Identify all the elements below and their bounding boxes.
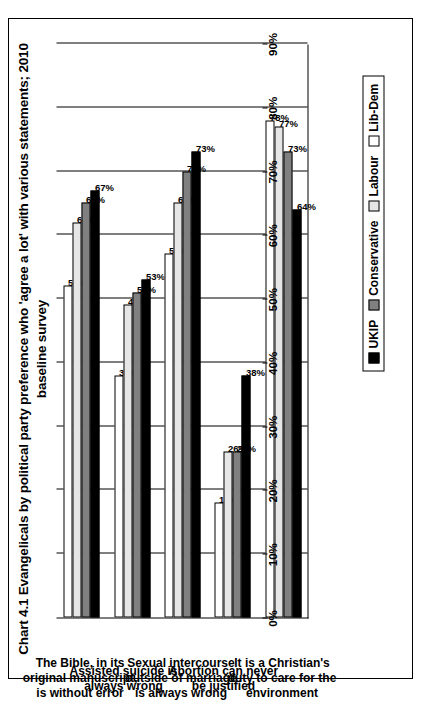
axis-tick-label: 30% [267, 415, 279, 438]
legend-item-ukip: UKIP [367, 319, 381, 363]
legend-label: Lib-Dem [367, 83, 381, 131]
axis-tick-label: 20% [267, 479, 279, 502]
bar-group: 18%26%26%38% [208, 43, 258, 617]
bar-conservative [132, 292, 141, 617]
bar-group: 52%62%65%67% [57, 43, 107, 617]
bar-labour [173, 202, 182, 617]
bar-conservative [233, 451, 242, 617]
bar-labour [224, 451, 233, 617]
legend-label: UKIP [367, 319, 381, 348]
bar-group: 78%77%73%64% [258, 43, 308, 617]
legend-item-libdem: Lib-Dem [367, 83, 381, 146]
legend-label: Labour [367, 155, 381, 196]
bar-value-label: 77% [279, 117, 298, 128]
axis-tick-label: 40% [267, 351, 279, 374]
plot-area: 52%62%65%67%38%49%51%53%57%65%70%73%18%2… [57, 44, 309, 618]
bar-conservative [82, 202, 91, 617]
legend-item-conservative: Conservative [367, 220, 381, 310]
bar-libdem [164, 253, 173, 617]
axis-tick-label: 0% [267, 610, 279, 627]
axis-tick-label: 50% [267, 288, 279, 311]
axis-tick-label: 10% [267, 543, 279, 566]
axis-tick-label: 70% [267, 160, 279, 183]
bar-conservative [182, 171, 191, 617]
bar-value-label: 64% [297, 200, 316, 211]
legend-label: Conservative [367, 220, 381, 295]
page-frame: Chart 4.1 Evangelicals by political part… [8, 18, 413, 679]
bar-ukip [242, 375, 251, 617]
bar-conservative [283, 151, 292, 617]
bar-libdem [215, 502, 224, 617]
axis-tick-label: 60% [267, 224, 279, 247]
chart-title: Chart 4.1 Evangelicals by political part… [15, 21, 51, 676]
category-label: It is a Christian's duty to care for the… [222, 656, 342, 701]
legend-swatch-ukip [368, 352, 379, 363]
axis-tick-label: 80% [267, 96, 279, 119]
bar-libdem [114, 375, 123, 617]
bar-group: 38%49%51%53% [107, 43, 157, 617]
bar-ukip [141, 279, 150, 617]
legend-item-labour: Labour [367, 155, 381, 211]
bar-libdem [64, 285, 73, 617]
legend-swatch-labour [368, 200, 379, 211]
bar-ukip [191, 151, 200, 617]
bar-group: 57%65%70%73% [157, 43, 207, 617]
bar-labour [73, 222, 82, 617]
legend-swatch-conservative [368, 299, 379, 310]
chart-legend: UKIPConservativeLabourLib-Dem [363, 75, 385, 371]
bar-labour [123, 305, 132, 618]
bar-ukip [91, 190, 100, 617]
legend-swatch-libdem [368, 135, 379, 146]
axis-tick-label: 90% [267, 32, 279, 55]
chart-root: Chart 4.1 Evangelicals by political part… [11, 21, 411, 676]
bar-value-label: 73% [288, 143, 307, 154]
bar-ukip [292, 209, 301, 617]
rotated-chart-wrapper: Chart 4.1 Evangelicals by political part… [11, 21, 411, 676]
plot-inner: 52%62%65%67%38%49%51%53%57%65%70%73%18%2… [57, 44, 308, 617]
